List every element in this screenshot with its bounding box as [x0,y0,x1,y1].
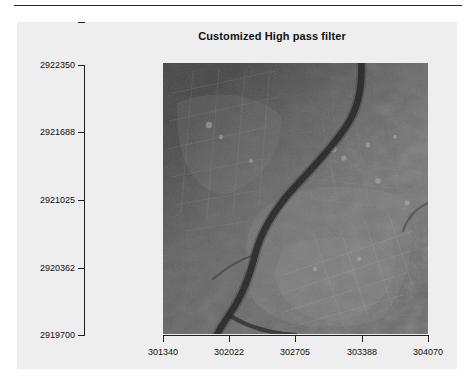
y-axis-tick-label: 2920362 [5,263,75,273]
page-title: Customized High pass filter [17,30,457,42]
y-axis-tick-label: 2922350 [5,60,75,70]
aerial-raster-graphic [163,63,428,334]
y-axis-tick-label: 2919700 [5,330,75,340]
top-divider-rule [14,5,462,6]
x-axis-tick [362,335,363,342]
y-axis-tick [78,335,85,336]
figure-panel: Customized High pass filter 2922350 2921… [17,22,457,369]
x-axis-tick-label: 301340 [128,347,198,357]
y-axis-tick [78,268,85,269]
x-axis-tick-label: 304070 [393,347,463,357]
x-axis-tick [295,335,296,342]
x-axis-tick [229,335,230,342]
x-axis-tick-label: 302022 [194,347,264,357]
y-axis-tick-label: 2921025 [5,195,75,205]
x-axis-tick-label: 302705 [260,347,330,357]
raster-image [163,63,428,334]
x-axis-tick [163,335,164,342]
y-axis-tick [78,200,85,201]
y-axis-tick [78,132,85,133]
y-axis-tick [78,22,85,23]
x-axis-tick-label: 303388 [327,347,397,357]
y-axis-tick [78,65,85,66]
x-axis-tick [428,335,429,342]
y-axis-tick-label: 2921688 [5,127,75,137]
